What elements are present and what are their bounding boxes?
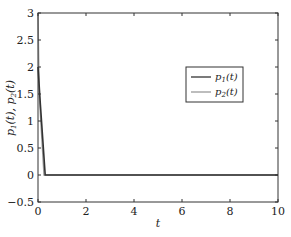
y-axis-label: p1(t), p2(t) — [4, 80, 18, 136]
x-tick-label: 4 — [131, 205, 138, 218]
plot-frame — [38, 13, 278, 202]
y-tick-label: 2 — [27, 61, 34, 74]
x-axis-ticks: 0246810 — [35, 13, 286, 218]
legend: p1(t) p2(t) — [186, 67, 243, 102]
x-tick-label: 10 — [271, 205, 285, 218]
x-axis-label: t — [156, 217, 161, 230]
y-tick-label: 0.5 — [17, 142, 35, 155]
y-axis-ticks: −0.500.511.522.53 — [7, 7, 278, 209]
x-tick-label: 0 — [35, 205, 42, 218]
y-tick-label: 2.5 — [17, 34, 35, 47]
x-tick-label: 6 — [179, 205, 186, 218]
svg-text:p1(t), p2(t): p1(t), p2(t) — [4, 80, 18, 136]
y-tick-label: 1 — [27, 115, 34, 128]
y-tick-label: 1.5 — [17, 88, 35, 101]
x-tick-label: 8 — [227, 205, 234, 218]
y-tick-label: −0.5 — [7, 196, 34, 209]
line-chart: 0246810 −0.500.511.522.53 t p1(t), p2(t)… — [0, 0, 291, 237]
x-tick-label: 2 — [83, 205, 90, 218]
y-tick-label: 0 — [27, 169, 34, 182]
y-tick-label: 3 — [27, 7, 34, 20]
